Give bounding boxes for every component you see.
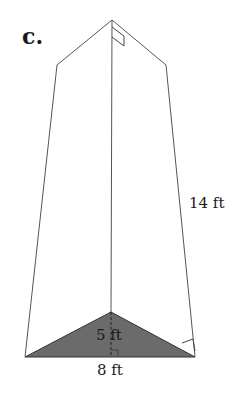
triangle-base-label: 8 ft: [97, 361, 123, 379]
prism-diagram: c. 14 ft 5 ft 8 ft: [0, 0, 246, 395]
prism-edges: [25, 20, 195, 357]
part-label: c.: [22, 23, 43, 49]
length-label: 14 ft: [189, 194, 224, 212]
right-angle-icon: [111, 27, 195, 357]
triangle-height-label: 5 ft: [96, 326, 122, 344]
